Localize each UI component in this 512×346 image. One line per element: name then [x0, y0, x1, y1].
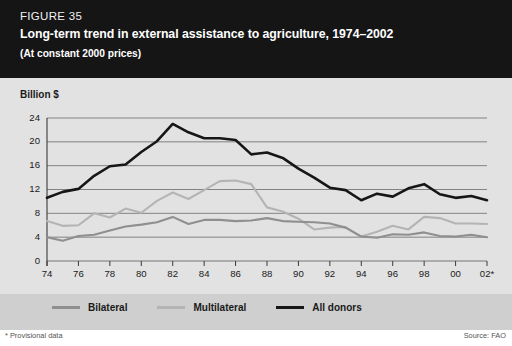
x-tick-label: 76 [65, 268, 91, 279]
figure-number: FIGURE 35 [20, 9, 512, 24]
y-tick-label: 8 [18, 207, 40, 218]
legend-item-multilateral[interactable]: Multilateral [157, 302, 246, 313]
y-tick-label: 0 [18, 255, 40, 266]
legend-items: Bilateral Multilateral All donors [52, 302, 392, 313]
figure-title-block: FIGURE 35 Long-term trend in external as… [0, 0, 512, 78]
x-tick-label: 96 [380, 268, 406, 279]
y-tick-label: 24 [18, 112, 40, 123]
y-tick-label: 12 [18, 183, 40, 194]
page-title: Long-term trend in external assistance t… [20, 25, 512, 44]
x-tick-label: 94 [348, 268, 374, 279]
legend-label-multilateral: Multilateral [193, 302, 246, 313]
y-tick-label: 16 [18, 159, 40, 170]
x-tick-label: 98 [411, 268, 437, 279]
x-tick-label: 80 [128, 268, 154, 279]
x-tick-label: 00 [443, 268, 469, 279]
figure-footer: * Provisional data Source: FAO [0, 330, 512, 346]
x-tick-label: 74 [34, 268, 60, 279]
figure-35-chart: FIGURE 35 Long-term trend in external as… [0, 0, 512, 346]
x-tick-label: 88 [254, 268, 280, 279]
x-tick-label: 82 [160, 268, 186, 279]
footnote-provisional-data: * Provisional data [5, 331, 63, 340]
y-tick-label: 4 [18, 231, 40, 242]
legend-swatch-bilateral [52, 306, 80, 309]
legend-swatch-multilateral [157, 306, 185, 309]
legend-swatch-all-donors [276, 306, 304, 310]
chart-legend: Bilateral Multilateral All donors [0, 294, 512, 330]
source-note: Source: FAO [464, 331, 506, 340]
x-tick-label: 92 [317, 268, 343, 279]
x-tick-label: 90 [285, 268, 311, 279]
figure-subtitle: (At constant 2000 prices) [20, 46, 512, 61]
series-line-all-donors [47, 124, 487, 200]
chart-plot-area: Billion $ 048121620247476788082848688909… [0, 78, 512, 294]
x-tick-label: 78 [97, 268, 123, 279]
legend-item-bilateral[interactable]: Bilateral [52, 302, 127, 313]
chart-svg [0, 78, 512, 294]
x-tick-label: 02* [474, 268, 500, 279]
x-tick-label: 86 [223, 268, 249, 279]
legend-label-bilateral: Bilateral [88, 302, 127, 313]
x-tick-label: 84 [191, 268, 217, 279]
plot-canvas: 0481216202474767880828486889092949698000… [0, 78, 512, 294]
y-tick-label: 20 [18, 135, 40, 146]
series-line-multilateral [47, 181, 487, 237]
legend-item-all-donors[interactable]: All donors [276, 302, 361, 313]
legend-label-all-donors: All donors [312, 302, 361, 313]
